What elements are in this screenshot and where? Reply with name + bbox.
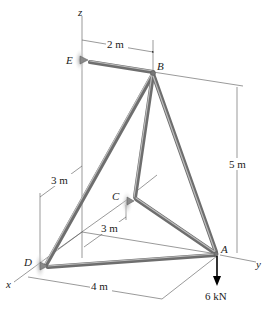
load-arrow <box>213 256 221 286</box>
member-ba <box>153 74 216 252</box>
dim-height: 5 m <box>229 158 246 170</box>
dim-c-offset: 3 m <box>101 222 118 234</box>
joint-label-a: A <box>220 243 228 255</box>
arrow-down-icon <box>213 276 221 286</box>
dim-d-offset: 3 m <box>51 174 68 186</box>
joint-label-e: E <box>65 54 73 66</box>
truss-diagram: z x y E B C D A 2 m 5 m 3 m 3 m 4 m 6 kN <box>0 0 266 316</box>
y-axis-label: y <box>255 258 261 270</box>
dim-eb: 2 m <box>107 38 124 50</box>
member-da <box>48 255 215 267</box>
joint-label-d: D <box>23 256 32 268</box>
y-axis <box>220 255 256 262</box>
member-be <box>90 62 153 72</box>
dim-da: 4 m <box>91 280 108 292</box>
load-label: 6 kN <box>205 290 227 302</box>
diagram-canvas: z x y E B C D A 2 m 5 m 3 m 3 m 4 m 6 kN <box>0 0 266 316</box>
truss-members <box>45 61 216 267</box>
x-axis-label: x <box>5 278 11 290</box>
joint-label-b: B <box>157 60 164 72</box>
member-ca <box>136 199 215 253</box>
joint-label-c: C <box>112 190 120 202</box>
z-axis-label: z <box>77 6 83 18</box>
